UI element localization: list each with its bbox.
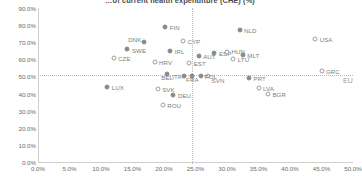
data-point-label-fin: FIN	[170, 23, 180, 30]
data-point-bgr[interactable]	[265, 91, 270, 96]
data-point-nld[interactable]	[237, 28, 242, 33]
data-point-label-cze: CZE	[118, 54, 131, 61]
y-tick-label: 70.0%	[0, 39, 36, 46]
x-tick-label: 35.0%	[250, 165, 268, 172]
y-tick-label: 30.0%	[0, 107, 36, 114]
reference-line-label: EU	[343, 77, 353, 84]
data-point-cze[interactable]	[111, 55, 116, 60]
data-point-ltu[interactable]	[231, 57, 236, 62]
chart-title: …of current health expenditure (CHE) (%)	[0, 0, 360, 5]
data-point-label-svk: SVK	[162, 86, 175, 93]
data-point-hrv[interactable]	[152, 59, 157, 64]
data-point-label-ita: ITA	[172, 73, 181, 80]
data-point-label-irl: IRL	[175, 47, 185, 54]
y-tick-label: 90.0%	[0, 5, 36, 12]
data-point-label-pol: POL	[205, 72, 218, 79]
y-tick-label: 80.0%	[0, 22, 36, 29]
data-point-label-cyp: CYP	[187, 37, 200, 44]
data-point-label-dnk: DNK	[128, 35, 141, 42]
data-point-usa[interactable]	[313, 36, 318, 41]
data-point-label-lux: LUX	[112, 83, 124, 90]
data-point-hun[interactable]	[225, 49, 230, 54]
y-tick-label: 10.0%	[0, 141, 36, 148]
x-tick-label: 15.0%	[124, 165, 142, 172]
data-point-rou[interactable]	[160, 102, 165, 107]
data-point-label-bel: BEL	[161, 74, 173, 81]
data-point-label-usa: USA	[320, 35, 333, 42]
x-tick-label: 10.0%	[92, 165, 110, 172]
data-point-lva[interactable]	[256, 86, 261, 91]
y-tick-label: 50.0%	[0, 73, 36, 80]
data-point-label-est: EST	[194, 59, 206, 66]
y-axis-line	[38, 8, 39, 162]
x-tick-label: 20.0%	[155, 165, 173, 172]
y-tick-label: 40.0%	[0, 90, 36, 97]
data-point-swe[interactable]	[125, 47, 130, 52]
data-point-label-bgr: BGR	[272, 90, 286, 97]
y-tick-label: 60.0%	[0, 56, 36, 63]
x-axis-line	[38, 162, 353, 163]
data-point-dnk[interactable]	[141, 40, 146, 45]
data-point-label-deu: DEU	[178, 92, 191, 99]
data-point-irl[interactable]	[168, 48, 173, 53]
data-point-label-nld: NLD	[244, 27, 257, 34]
data-point-aut[interactable]	[196, 53, 201, 58]
data-point-label-swe: SWE	[132, 46, 146, 53]
x-tick-label: 45.0%	[313, 165, 331, 172]
reference-line-eu-vertical	[192, 8, 193, 164]
x-tick-label: 0.0%	[31, 165, 45, 172]
data-point-grc[interactable]	[319, 69, 324, 74]
data-point-label-rou: ROU	[167, 101, 181, 108]
data-point-fin[interactable]	[163, 24, 168, 29]
data-point-deu[interactable]	[171, 93, 176, 98]
x-tick-label: 25.0%	[187, 165, 205, 172]
data-point-label-ltu: LTU	[238, 56, 249, 63]
data-point-est[interactable]	[187, 60, 192, 65]
data-point-lux[interactable]	[105, 84, 110, 89]
data-point-ita[interactable]	[182, 74, 187, 79]
data-point-pol[interactable]	[198, 73, 203, 78]
y-tick-label: 20.0%	[0, 124, 36, 131]
data-point-label-fra: FRA	[186, 76, 199, 83]
x-tick-label: 40.0%	[281, 165, 299, 172]
data-point-svk[interactable]	[155, 87, 160, 92]
x-tick-label: 50.0%	[344, 165, 362, 172]
data-point-label-grc: GRC	[326, 68, 340, 75]
x-tick-label: 5.0%	[62, 165, 76, 172]
data-point-label-hrv: HRV	[159, 58, 172, 65]
data-point-cyp[interactable]	[180, 38, 185, 43]
data-point-prt[interactable]	[247, 76, 252, 81]
data-point-label-prt: PRT	[254, 75, 266, 82]
x-tick-label: 30.0%	[218, 165, 236, 172]
